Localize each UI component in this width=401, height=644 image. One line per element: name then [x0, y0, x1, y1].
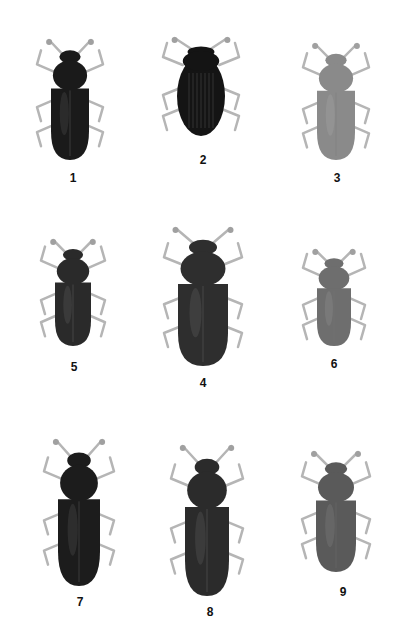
beetle-specimen-2 [163, 37, 239, 136]
specimen-number-label: 8 [207, 605, 214, 619]
beetle-plate-illustration [0, 0, 401, 644]
specimen-number-label: 7 [77, 595, 84, 609]
beetle-specimen-5 [41, 239, 105, 346]
specimen-number-label: 6 [331, 357, 338, 371]
beetle-specimen-8 [171, 445, 243, 596]
specimen-number-label: 3 [334, 171, 341, 185]
beetle-specimen-3 [303, 43, 369, 160]
beetle-specimen-7 [44, 439, 114, 586]
beetle-specimen-9 [302, 451, 370, 572]
specimen-number-label: 2 [200, 153, 207, 167]
specimen-number-label: 5 [71, 360, 78, 374]
specimen-number-label: 9 [340, 585, 347, 599]
specimen-number-label: 1 [70, 171, 77, 185]
beetle-specimen-6 [303, 249, 365, 346]
specimen-number-label: 4 [200, 376, 207, 390]
beetle-specimen-4 [164, 227, 242, 366]
beetle-specimen-1 [37, 39, 103, 160]
